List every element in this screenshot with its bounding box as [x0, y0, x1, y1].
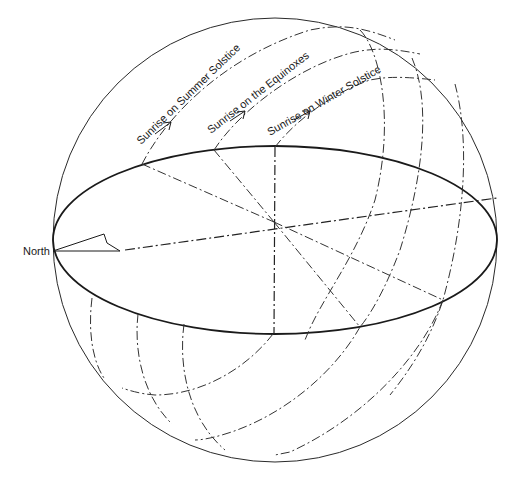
- vertical-axis-line: [274, 147, 275, 334]
- north-arrow-icon: [53, 234, 120, 251]
- equinox-path-lower: [195, 327, 360, 440]
- summer-sunset-ray: [274, 222, 443, 300]
- summer-sunrise-ray: [142, 164, 274, 222]
- equinox-sunset-ray: [274, 222, 360, 327]
- equinox-sunrise-ray: [214, 150, 274, 222]
- north-south-line: [125, 198, 497, 250]
- lower-arc-2: [137, 314, 172, 424]
- winter-path-lower: [122, 334, 273, 395]
- lower-arc-3: [183, 324, 225, 450]
- celestial-sphere-diagram: Sunrise on Summer Solstice Sunrise on th…: [0, 0, 520, 478]
- summer-path-lower: [275, 300, 443, 455]
- summer-solstice-label: Sunrise on Summer Solstice: [134, 41, 242, 146]
- hour-arc-3: [390, 84, 464, 395]
- north-label: North: [23, 245, 50, 257]
